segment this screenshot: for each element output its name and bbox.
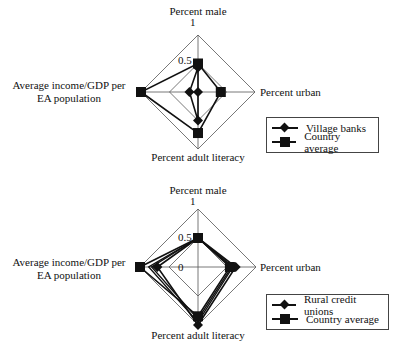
legend: Village banks Country average xyxy=(266,117,379,153)
square-marker-icon xyxy=(272,314,298,324)
axis-label-left-line1: Average income/GDP per xyxy=(4,256,134,268)
tick-label-0: 0 xyxy=(178,262,184,273)
legend: Rural credit unions Country average xyxy=(266,294,389,330)
axis-label-left-line2: EA population xyxy=(4,92,134,104)
axis-label-bottom: Percent adult literacy xyxy=(136,151,260,163)
tick-label-1: 1 xyxy=(190,196,196,207)
tick-label-0.5: 0.5 xyxy=(178,232,192,243)
radar-chart-village-banks: Percent male 1 0.5 Percent urban Percent… xyxy=(0,0,405,178)
axis-label-left-line2: EA population xyxy=(4,269,134,281)
legend-item-country-average: Country average xyxy=(272,312,382,326)
diamond-marker-icon xyxy=(272,300,296,310)
diamond-marker-icon xyxy=(272,123,298,133)
legend-label: Country average xyxy=(304,130,372,154)
tick-label-1: 1 xyxy=(190,17,196,28)
axis-label-right: Percent urban xyxy=(260,261,321,273)
legend-item-rural-credit-unions: Rural credit unions xyxy=(272,298,382,312)
axis-label-left-line1: Average income/GDP per xyxy=(4,79,134,91)
radar-chart-rural-credit-unions: Percent male 1 0.5 0 Percent urban Perce… xyxy=(0,178,405,356)
axis-label-right: Percent urban xyxy=(260,86,321,98)
axis-label-top: Percent male xyxy=(150,184,246,196)
axis-label-top: Percent male xyxy=(150,5,246,17)
legend-item-country-average: Country average xyxy=(272,135,372,149)
legend-label: Country average xyxy=(306,313,379,325)
axis-label-bottom: Percent adult literacy xyxy=(136,329,260,341)
square-marker-icon xyxy=(272,137,296,147)
tick-label-0.5: 0.5 xyxy=(178,55,192,66)
